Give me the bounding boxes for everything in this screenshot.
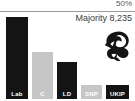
- chart-baseline: [0, 99, 135, 101]
- bar-snp: SNP: [81, 85, 102, 99]
- bar-c: C: [32, 52, 53, 99]
- bar-ukip: UKIP: [106, 85, 129, 99]
- fifty-percent-threshold-line: [0, 11, 135, 12]
- labour-rose-logo: [104, 30, 132, 61]
- majority-label: Majority 8,235: [75, 13, 132, 24]
- election-bar-chart: 50% Majority 8,235 Lab C LD: [0, 0, 135, 101]
- bar-label-c: C: [32, 91, 53, 98]
- bar-label-snp: SNP: [81, 91, 102, 98]
- bar-lab: Lab: [6, 17, 28, 99]
- bar-label-ukip: UKIP: [106, 91, 129, 98]
- bar-label-ld: LD: [57, 91, 77, 98]
- bar-ld: LD: [57, 62, 77, 99]
- bar-label-lab: Lab: [6, 91, 28, 98]
- threshold-percent-label: 50%: [116, 0, 132, 9]
